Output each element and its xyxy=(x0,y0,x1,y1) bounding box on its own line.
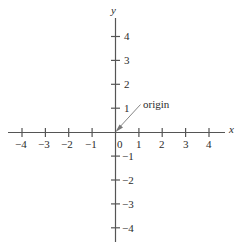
y-axis-label-2: 2 xyxy=(124,79,130,90)
y-axis-label-1: 1 xyxy=(124,103,130,114)
x-axis-label--4: −4 xyxy=(15,139,27,150)
y-axis-label-4: 4 xyxy=(124,31,130,42)
y-axis-name: y xyxy=(111,5,116,16)
x-axis-name: x xyxy=(229,124,234,135)
x-axis-label-0: 0 xyxy=(117,139,123,150)
origin-arrowhead-icon xyxy=(116,124,124,132)
x-axis-label--1: −1 xyxy=(85,139,97,150)
x-axis-label-4: 4 xyxy=(206,139,212,150)
axes-drawing xyxy=(0,0,241,245)
y-axis-label--3: −3 xyxy=(122,199,134,210)
x-axis-label-1: 1 xyxy=(136,139,142,150)
y-axis-label--1: −1 xyxy=(122,151,134,162)
y-axis-label-3: 3 xyxy=(124,55,130,66)
x-axis-label--3: −3 xyxy=(38,139,50,150)
x-axis-label-2: 2 xyxy=(159,139,165,150)
x-axis-label-3: 3 xyxy=(183,139,189,150)
y-axis-label--4: −4 xyxy=(122,223,134,234)
origin-annotation-label: origin xyxy=(143,99,169,110)
y-axis-label--2: −2 xyxy=(122,175,134,186)
coordinate-plane-figure: −4 −3 −2 −1 0 1 2 3 4 4 3 2 1 −1 −2 −3 −… xyxy=(0,0,241,245)
x-axis-label--2: −2 xyxy=(61,139,73,150)
